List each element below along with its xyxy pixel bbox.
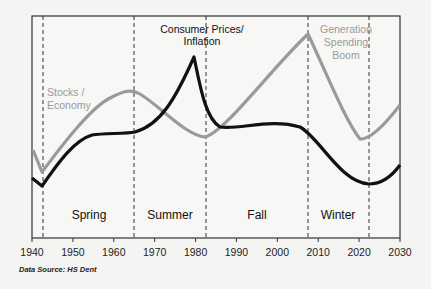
- economic-seasons-chart: Stocks / Economy Consumer Prices/ Inflat…: [0, 0, 431, 289]
- gen-label-1: Generation: [320, 23, 372, 35]
- stocks-label-2: Economy: [47, 99, 92, 111]
- x-ticks: [32, 238, 400, 242]
- tick-1950: 1950: [61, 246, 85, 258]
- tick-2030: 2030: [388, 246, 412, 258]
- x-tick-labels: 1940 1950 1960 1970 1980 1990 2000 2010 …: [20, 246, 412, 258]
- tick-2010: 2010: [307, 246, 331, 258]
- season-winter: Winter: [321, 208, 356, 222]
- gen-label-3: Boom: [332, 49, 360, 61]
- gen-label-2: Spending: [324, 36, 369, 48]
- tick-2000: 2000: [266, 246, 290, 258]
- tick-1940: 1940: [20, 246, 44, 258]
- tick-1980: 1980: [184, 246, 208, 258]
- season-fall: Fall: [247, 208, 266, 222]
- tick-1990: 1990: [225, 246, 249, 258]
- tick-1970: 1970: [143, 246, 167, 258]
- tick-2020: 2020: [347, 246, 371, 258]
- tick-1960: 1960: [102, 246, 126, 258]
- season-summer: Summer: [147, 208, 192, 222]
- stocks-label-1: Stocks /: [47, 86, 84, 98]
- data-source: Data Source: HS Dent: [19, 265, 97, 274]
- cpi-label-2: Inflation: [184, 35, 221, 47]
- season-spring: Spring: [72, 208, 107, 222]
- cpi-label-1: Consumer Prices/: [160, 23, 244, 35]
